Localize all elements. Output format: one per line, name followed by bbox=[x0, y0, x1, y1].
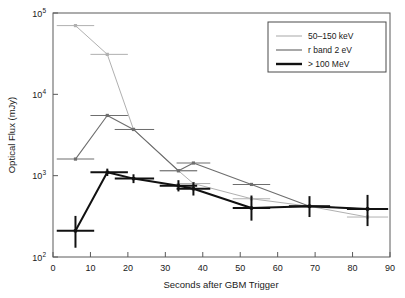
data-point-marker bbox=[106, 114, 109, 117]
data-point-marker bbox=[177, 184, 180, 187]
x-tick-label: 60 bbox=[273, 263, 283, 273]
data-point-marker bbox=[106, 171, 109, 174]
data-point-marker bbox=[74, 157, 77, 160]
data-point-marker bbox=[250, 206, 253, 209]
legend-entry-label: > 100 MeV bbox=[308, 59, 350, 69]
data-point-marker bbox=[132, 177, 135, 180]
data-point-marker bbox=[366, 207, 369, 210]
x-tick-label: 50 bbox=[235, 263, 245, 273]
data-point-marker bbox=[132, 128, 135, 131]
chart-canvas: 0102030405060708090 102103104105 50–150 … bbox=[0, 0, 405, 298]
y-tick-label: 104 bbox=[32, 88, 46, 100]
y-axis-title: Optical Flux (mJy) bbox=[6, 97, 17, 174]
data-point-marker bbox=[308, 205, 311, 208]
x-tick-label: 30 bbox=[160, 263, 170, 273]
data-point-marker bbox=[192, 161, 195, 164]
y-tick-exponent: 5 bbox=[42, 7, 46, 14]
x-tick-label: 90 bbox=[385, 263, 395, 273]
data-point-marker bbox=[74, 229, 77, 232]
data-point-marker bbox=[192, 187, 195, 190]
y-tick-label: 102 bbox=[32, 251, 46, 263]
x-tick-label: 10 bbox=[85, 263, 95, 273]
data-point-marker bbox=[177, 169, 180, 172]
y-tick-exponent: 2 bbox=[42, 251, 46, 258]
y-tick-exponent: 3 bbox=[42, 169, 46, 176]
y-tick-exponent: 4 bbox=[42, 88, 46, 95]
x-tick-label: 0 bbox=[50, 263, 55, 273]
legend-entry-label: r band 2 eV bbox=[308, 45, 352, 55]
figure-container: 0102030405060708090 102103104105 50–150 … bbox=[0, 0, 405, 298]
x-tick-label: 80 bbox=[348, 263, 358, 273]
chart-legend: 50–150 keVr band 2 eV> 100 MeV bbox=[268, 22, 386, 72]
x-tick-label: 70 bbox=[310, 263, 320, 273]
data-point-marker bbox=[250, 183, 253, 186]
x-axis-title: Seconds after GBM Trigger bbox=[163, 279, 278, 290]
legend-entry-label: 50–150 keV bbox=[308, 31, 354, 41]
x-tick-label: 20 bbox=[123, 263, 133, 273]
data-point-marker bbox=[74, 24, 77, 27]
data-point-marker bbox=[106, 53, 109, 56]
y-tick-label: 105 bbox=[32, 7, 46, 19]
x-tick-label: 40 bbox=[198, 263, 208, 273]
y-tick-label: 103 bbox=[32, 169, 46, 181]
